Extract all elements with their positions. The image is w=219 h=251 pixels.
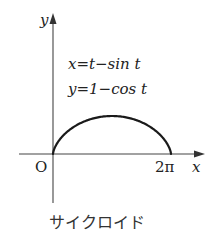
cycloid-curve (53, 116, 171, 154)
x-axis-label: x (192, 158, 201, 176)
y-axis (50, 13, 57, 203)
equation-y: y=1−cos t (67, 80, 148, 98)
origin-label: O (35, 158, 47, 176)
y-axis-arrow-icon (50, 13, 57, 24)
equation-x: x=t−sin t (68, 55, 142, 73)
x-tick-label-2pi: 2π (155, 158, 175, 176)
caption: サイクロイド (49, 213, 145, 232)
x-axis (19, 151, 205, 158)
x-axis-arrow-icon (194, 151, 205, 158)
y-axis-label: y (39, 11, 49, 29)
cycloid-diagram: y x O 2π x=t−sin t y=1−cos t サイクロイド (0, 0, 219, 251)
